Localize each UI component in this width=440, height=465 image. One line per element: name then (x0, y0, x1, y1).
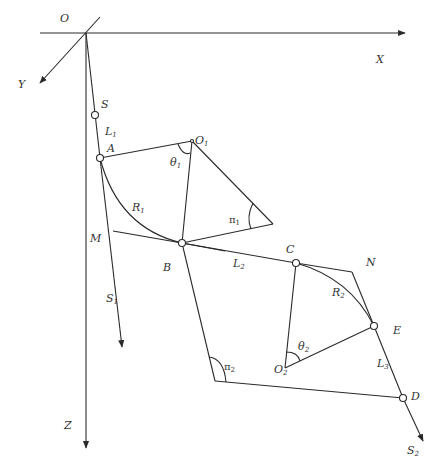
point-c (293, 260, 300, 267)
pi1-line-b (182, 224, 273, 243)
line-pi2-d (215, 381, 403, 398)
theta1-angle-arc (178, 144, 190, 154)
tangent-a-s1 (100, 158, 122, 347)
segment-l1 (86, 33, 100, 158)
pi1-line-o1 (192, 141, 273, 224)
label-x-axis: X (375, 53, 385, 66)
label-r1: R1 (131, 201, 145, 215)
point-e (371, 323, 378, 330)
tangent-m-b (113, 231, 182, 243)
point-o1 (191, 140, 194, 143)
label-e: E (392, 324, 401, 337)
label-pi2: π2 (224, 361, 235, 374)
theta2-angle-arc (286, 352, 300, 361)
label-z-axis: Z (63, 419, 72, 432)
label-a: A (106, 142, 115, 155)
label-m: M (89, 232, 102, 245)
label-y-axis: Y (18, 78, 27, 91)
line-b-far (182, 243, 225, 251)
well-trajectory-diagram: O X Y Z S L1 A O1 θ1 R1 π1 M B S1 L2 C N… (0, 0, 440, 465)
point-b (179, 240, 186, 247)
label-c: C (286, 243, 295, 256)
label-b: B (162, 261, 171, 274)
label-theta2: θ2 (298, 340, 310, 354)
label-origin: O (60, 12, 69, 25)
point-s (92, 112, 99, 119)
label-s: S (101, 98, 109, 111)
point-d (400, 395, 407, 402)
label-o2: O2 (274, 363, 288, 377)
tangent-d-s2 (403, 398, 423, 441)
arc-r1 (100, 158, 182, 243)
label-n: N (365, 256, 376, 269)
label-pi1: π1 (229, 214, 240, 227)
tangent-c-n (296, 263, 352, 272)
label-theta1: θ1 (170, 156, 181, 170)
point-a (97, 155, 104, 162)
label-s2: S2 (407, 444, 420, 458)
label-l2: L2 (232, 257, 245, 271)
pi1-angle-arc (249, 203, 253, 229)
label-l1: L1 (104, 125, 117, 139)
label-r2: R2 (331, 286, 345, 300)
line-b-pi2 (182, 243, 215, 381)
radius-b-o1 (182, 141, 192, 243)
label-d: D (410, 390, 420, 403)
label-o1: O1 (195, 134, 209, 148)
